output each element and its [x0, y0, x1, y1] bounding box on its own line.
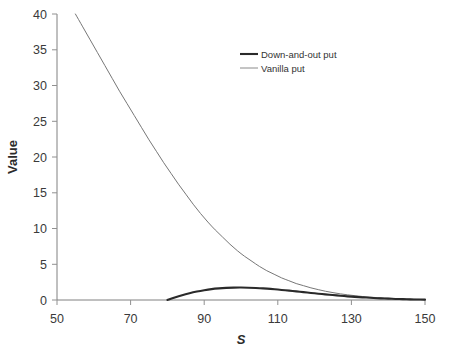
y-tick-label: 20	[33, 151, 47, 165]
legend-label-vanilla-put: Vanilla put	[261, 63, 305, 74]
y-tick-label: 10	[33, 222, 47, 236]
x-tick-label: 150	[415, 312, 436, 326]
series-line-vanilla-put	[75, 14, 425, 300]
y-axis-label: Value	[5, 140, 20, 174]
x-tick-label: 130	[341, 312, 362, 326]
x-tick-label: 70	[124, 312, 138, 326]
y-tick-label: 5	[40, 258, 47, 272]
y-tick-labels: 40 35 30 25 20 15 10 5 0	[33, 8, 47, 308]
x-tick-labels: 50 70 90 110 130 150	[50, 312, 435, 326]
chart-figure: 40 35 30 25 20 15 10 5 0 50 70 90 110 13…	[0, 0, 453, 359]
y-tick-label: 30	[33, 79, 47, 93]
x-axis-label: S	[237, 332, 246, 347]
series-line-down-and-out-put	[167, 288, 425, 300]
y-tick-label: 40	[33, 8, 47, 22]
y-tick-label: 15	[33, 186, 47, 200]
chart-plot-area: 40 35 30 25 20 15 10 5 0 50 70 90 110 13…	[0, 0, 453, 359]
x-tick-label: 110	[268, 312, 288, 326]
y-tick-label: 25	[33, 115, 47, 129]
x-tick-marks	[57, 300, 425, 305]
y-tick-marks	[52, 14, 57, 300]
y-tick-label: 0	[40, 294, 47, 308]
y-tick-label: 35	[33, 43, 47, 57]
x-tick-label: 90	[197, 312, 211, 326]
chart-legend: Down-and-out put Vanilla put	[240, 49, 337, 74]
legend-label-down-and-out-put: Down-and-out put	[261, 49, 337, 60]
x-tick-label: 50	[50, 312, 64, 326]
